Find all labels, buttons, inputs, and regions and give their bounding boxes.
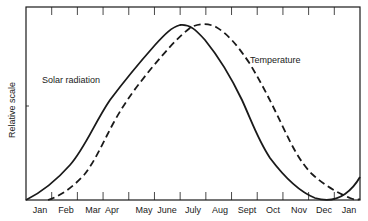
month-label: Sept — [238, 205, 257, 215]
month-label: June — [157, 205, 177, 215]
month-label: Jan — [33, 205, 48, 215]
month-label: Nov — [291, 205, 308, 215]
axis-ticks — [52, 7, 335, 200]
month-label: Feb — [58, 205, 74, 215]
solar-radiation-line — [26, 25, 360, 200]
month-label: Jan — [342, 205, 357, 215]
plot-frame — [26, 7, 360, 200]
temperature-label: Temperature — [250, 55, 301, 65]
solar-radiation-label: Solar radiation — [42, 75, 100, 85]
month-label: Aug — [212, 205, 228, 215]
x-axis-labels: JanFebMarAprMayJuneJulyAugSeptOctNovDecJ… — [33, 205, 357, 215]
month-label: Apr — [105, 205, 119, 215]
chart: Solar radiation Temperature Relative sca… — [0, 0, 368, 221]
month-label: July — [185, 205, 202, 215]
temperature-line — [48, 24, 360, 200]
month-label: Oct — [266, 205, 281, 215]
y-axis-label: Relative scale — [7, 82, 17, 138]
month-label: Dec — [316, 205, 333, 215]
month-label: May — [135, 205, 153, 215]
month-label: Mar — [85, 205, 101, 215]
